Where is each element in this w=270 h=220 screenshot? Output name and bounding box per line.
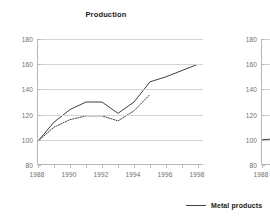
y-axis-tick-label: 100: [231, 136, 257, 143]
y-axis-tick-label: 160: [231, 61, 257, 68]
data-series-line: [38, 94, 150, 141]
chart-legend: Metal products: [186, 202, 262, 209]
y-axis-tick-label: 160: [7, 61, 33, 68]
y-axis-tick-label: 120: [231, 111, 257, 118]
chart-title: Production: [0, 10, 212, 19]
x-axis-tick-mark: [134, 165, 135, 168]
x-axis-tick-mark: [262, 165, 263, 168]
x-axis-tick-mark: [86, 165, 87, 168]
x-axis-tick-mark: [54, 165, 55, 168]
x-axis-tick-mark: [102, 165, 103, 168]
x-axis-tick-mark: [198, 165, 199, 168]
gridline: [38, 115, 203, 116]
y-axis-tick-mark: [262, 39, 265, 40]
gridline: [38, 89, 203, 90]
y-axis-tick-label: 120: [7, 111, 33, 118]
chart-production: Production 80100120140160180: [0, 0, 212, 192]
x-axis-tick-mark: [182, 165, 183, 168]
legend-label-metal-products: Metal products: [211, 202, 262, 209]
x-axis-tick-label: 1992: [94, 171, 109, 178]
x-axis-tick-label: 1996: [158, 171, 173, 178]
gridline: [38, 39, 203, 40]
x-axis-tick-label: 1988: [254, 171, 269, 178]
y-axis-tick-label: 100: [7, 136, 33, 143]
x-axis-tick-label: 1998: [190, 171, 205, 178]
y-axis-tick-mark: [38, 39, 41, 40]
x-axis-tick-label: 1994: [126, 171, 141, 178]
series-layer-main: [38, 39, 204, 165]
y-axis-tick-label: 80: [7, 162, 33, 169]
y-axis-tick-mark: [38, 89, 41, 90]
y-axis-tick-label: 80: [231, 162, 257, 169]
chart-page: Production 80100120140160180 80100120140…: [0, 0, 270, 220]
y-axis-main: 80100120140160180: [0, 39, 33, 165]
series-layer-second: [262, 39, 270, 165]
y-axis-tick-mark: [262, 140, 265, 141]
y-axis-tick-mark: [262, 115, 265, 116]
plot-area-main: [37, 39, 203, 165]
y-axis-tick-label: 180: [7, 36, 33, 43]
y-axis-tick-mark: [38, 140, 41, 141]
y-axis-tick-label: 140: [7, 86, 33, 93]
data-series-line: [38, 64, 198, 141]
y-axis-tick-label: 180: [231, 36, 257, 43]
y-axis-second: 80100120140160180: [224, 39, 257, 165]
gridline: [38, 64, 203, 65]
y-axis-tick-mark: [262, 64, 265, 65]
x-axis-tick-mark: [70, 165, 71, 168]
x-axis-tick-mark: [118, 165, 119, 168]
y-axis-tick-mark: [38, 115, 41, 116]
x-axis-tick-mark: [38, 165, 39, 168]
x-axis-tick-mark: [166, 165, 167, 168]
x-axis-tick-mark: [150, 165, 151, 168]
x-axis-tick-label: 1990: [62, 171, 77, 178]
gridline: [38, 140, 203, 141]
y-axis-tick-mark: [38, 64, 41, 65]
y-axis-tick-mark: [262, 89, 265, 90]
y-axis-tick-label: 140: [231, 86, 257, 93]
plot-area-second: [261, 39, 270, 165]
x-axis-tick-label: 1988: [30, 171, 45, 178]
legend-line-icon: [186, 205, 206, 206]
